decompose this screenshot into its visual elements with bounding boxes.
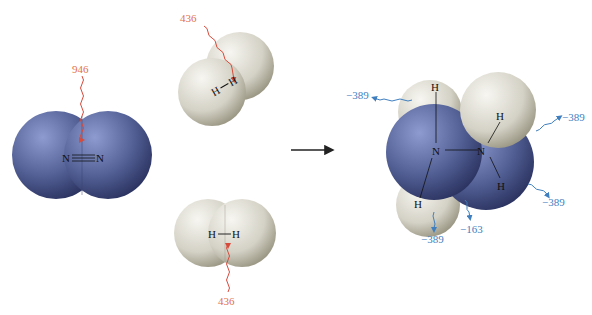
n2h4-h-top-right: H — [496, 110, 504, 122]
n2-bond-energy: 946 — [72, 63, 89, 75]
h2-bottom-molecule: H H 436 — [174, 199, 276, 307]
n2h4-molecule: H H N N H H −389 −389 −389 −389 −163 — [346, 72, 585, 245]
energy-out-bottom-left: −389 — [421, 233, 444, 245]
reaction-diagram: N N 946 436 H H H H 436 — [0, 0, 592, 315]
n2-atom-right: N — [96, 152, 104, 164]
energy-squiggle-out-icon — [528, 184, 548, 196]
n2-atom-left: N — [62, 152, 70, 164]
h2-bottom-atom-right: H — [232, 228, 240, 240]
n2h4-h-top-left: H — [431, 81, 439, 93]
energy-squiggle-out-icon — [536, 117, 560, 131]
n2h4-h-bottom-left: H — [414, 198, 422, 210]
h2-top-bond-energy: 436 — [180, 12, 197, 24]
n2h4-n-right: N — [477, 145, 485, 157]
h2-bottom-bond-energy: 436 — [218, 295, 235, 307]
energy-out-right-bottom: −389 — [542, 196, 565, 208]
n2-molecule: N N 946 — [12, 63, 152, 199]
energy-out-right-top: −389 — [562, 111, 585, 123]
h2-top-molecule: 436 H H — [178, 12, 274, 126]
h2-bottom-atom-left: H — [208, 228, 216, 240]
energy-out-bottom-nn: −163 — [460, 223, 483, 235]
n2h4-h-bottom-right: H — [497, 180, 505, 192]
n2h4-n-left: N — [432, 145, 440, 157]
energy-out-top-left: −389 — [346, 89, 369, 101]
